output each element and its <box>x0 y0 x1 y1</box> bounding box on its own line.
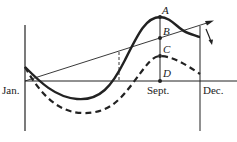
down-arrow-head-icon <box>209 40 214 46</box>
trend-arrow-icon <box>205 21 214 26</box>
dashed-curve <box>25 56 200 113</box>
point-label-a: A <box>162 5 169 16</box>
axis-label-sept: Sept. <box>147 85 169 96</box>
axis-label-jan: Jan. <box>2 85 19 96</box>
point-b <box>158 36 162 40</box>
point-c <box>158 54 162 58</box>
diagram-canvas <box>0 0 237 142</box>
point-label-b: B <box>163 26 170 37</box>
point-label-c: C <box>163 44 170 55</box>
point-d <box>158 79 162 83</box>
point-label-d: D <box>163 68 171 79</box>
axis-label-dec: Dec. <box>203 85 223 96</box>
